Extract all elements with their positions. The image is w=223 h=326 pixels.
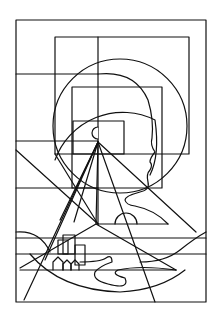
hill-right [140,232,206,262]
second-rectangle [55,37,189,154]
hill-left [16,232,50,252]
line-drawing-artwork [0,0,223,326]
converging-rays [24,142,196,302]
hill-main [20,224,176,270]
diagonal-line-left [16,150,98,224]
notch-semicircle [92,127,98,139]
head-profile [98,74,168,224]
